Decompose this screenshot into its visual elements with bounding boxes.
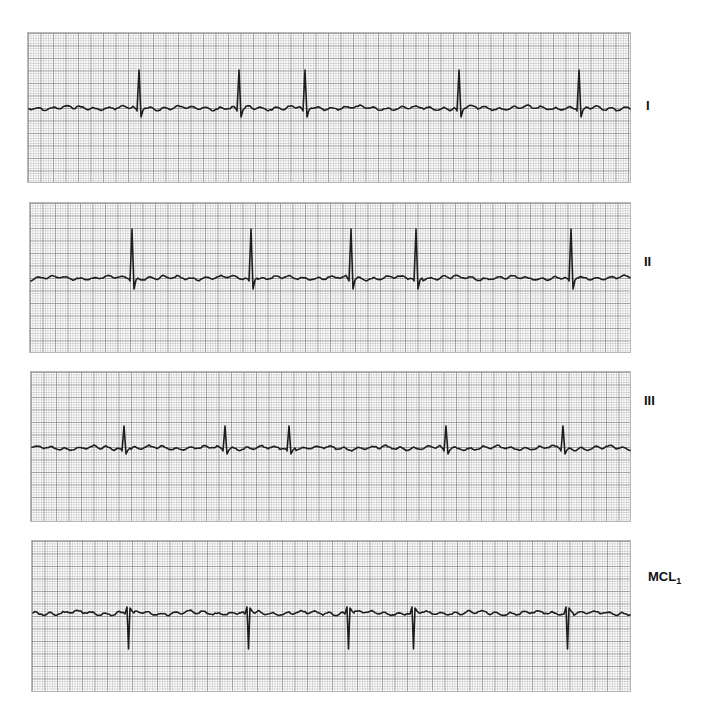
- ecg-strip-iii: [30, 371, 631, 522]
- lead-label-i: I: [646, 99, 650, 112]
- lead-label-mcl1: MCL1: [648, 570, 681, 586]
- lead-label-subscript: 1: [676, 576, 681, 586]
- lead-label-mcl: MCL: [648, 569, 676, 584]
- ecg-trace-i: [28, 33, 632, 184]
- lead-label-ii: II: [644, 255, 651, 268]
- ecg-waveform: [29, 70, 630, 117]
- ecg-trace-iii: [31, 372, 632, 523]
- lead-label-iii: III: [644, 394, 655, 407]
- ecg-strip-i: [27, 32, 631, 183]
- ecg-trace-ii: [30, 203, 632, 354]
- ecg-strip-ii: [29, 202, 631, 353]
- ecg-strip-mcl1: [31, 540, 631, 692]
- ecg-waveform: [32, 426, 630, 454]
- ecg-trace-mcl1: [32, 541, 632, 693]
- ecg-waveform: [33, 607, 630, 649]
- ecg-waveform: [31, 229, 630, 289]
